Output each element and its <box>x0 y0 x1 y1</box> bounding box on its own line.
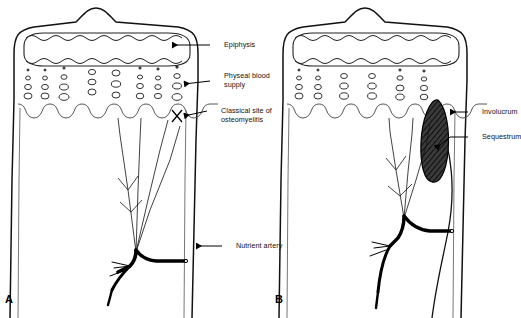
label-sequestrum: Sequestrum <box>482 133 521 142</box>
classical-site-osteomyelitis-marker-a <box>172 110 182 122</box>
physis-scalloped-line-a <box>18 104 218 118</box>
nutrient-artery-b <box>370 216 452 308</box>
panel-letter-a: A <box>5 293 13 305</box>
leader-lines-a <box>172 45 222 246</box>
nutrient-foramen-a <box>184 259 187 262</box>
physis-scalloped-line-b <box>287 104 487 118</box>
bone-outer-cortex-b-left <box>279 54 283 318</box>
epiphysis-wavy-top-a <box>26 36 182 41</box>
label-nutrient-artery: Nutrient artery <box>236 242 282 251</box>
label-involucrum: Involucrum <box>482 108 518 117</box>
nutrient-artery-a <box>108 250 186 305</box>
epiphysis-outline-b <box>293 33 459 66</box>
label-classical-site-osteomyelitis: Classical site of osteomyelitis <box>221 107 283 124</box>
nutrient-foramen-b <box>450 229 453 232</box>
label-physeal-blood-supply: Physeal blood supply <box>224 72 284 89</box>
leader-physeal-blood-supply <box>184 81 210 84</box>
epiphysis-wavy-bottom-b <box>295 59 451 64</box>
physeal-blood-supply-a <box>24 66 182 101</box>
epiphysis-wavy-bottom-a <box>26 59 182 64</box>
panel-a-bone <box>10 8 218 318</box>
epiphysis-outline-a <box>24 33 190 66</box>
medullary-cortex-right-b <box>453 110 455 318</box>
bone-outer-cortex-a <box>14 8 198 318</box>
bone-outer-cortex-a-left <box>10 54 14 318</box>
panel-letter-b: B <box>275 293 283 305</box>
label-epiphysis: Epiphysis <box>224 41 255 50</box>
physeal-blood-supply-b <box>295 69 428 100</box>
medullary-cortex-left-b <box>287 108 289 318</box>
medullary-cortex-left-a <box>18 108 20 318</box>
metaphyseal-vessels-a <box>118 118 180 252</box>
figure-caption <box>6 311 306 318</box>
medullary-cortex-right-a <box>184 110 186 318</box>
epiphysis-wavy-top-b <box>295 36 451 41</box>
panel-b-bone <box>279 8 487 318</box>
